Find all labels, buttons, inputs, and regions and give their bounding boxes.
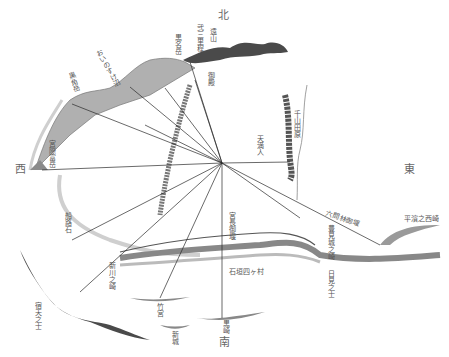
- label-miyanaga: 宮長御堰: [228, 212, 236, 240]
- label-touyama: 遠山: [209, 28, 217, 42]
- label-sansan-ridge: 弐三里程: [196, 24, 204, 52]
- label-shinjou: 新城: [171, 331, 179, 345]
- east-peninsula: [380, 225, 440, 245]
- island-shinjou: [160, 325, 190, 329]
- coastline: [59, 175, 200, 255]
- compass-west: 西: [15, 160, 26, 176]
- label-miyamoto: 宮際富岳: [48, 140, 56, 168]
- label-kuromeidake: 黒名岳: [174, 34, 182, 55]
- south-ridge: [120, 243, 440, 259]
- compass-north: 北: [218, 6, 229, 22]
- label-kurosaki: 黒崎: [222, 320, 230, 334]
- label-hoshiki: 宿天之士: [34, 302, 42, 330]
- label-funaishi: 船路石: [64, 212, 72, 233]
- label-shinkawa: 新川之崎: [108, 262, 116, 290]
- island-kurosaki: [196, 312, 265, 320]
- east-river: [297, 85, 307, 200]
- label-tenma: 天満人: [256, 135, 264, 156]
- compass-east: 東: [404, 160, 415, 176]
- label-hirasaki: 平濱之西崎: [404, 215, 439, 223]
- east-ridge: [285, 95, 292, 180]
- label-chiyama: 千山田原: [293, 110, 301, 138]
- label-ishizuka: 石垣四ヶ村: [229, 268, 264, 276]
- label-toyomi: 豊見城之崎: [327, 225, 335, 260]
- survey-map: [0, 0, 449, 357]
- label-akari: 日見之士: [327, 270, 335, 298]
- compass-south: 南: [219, 333, 230, 349]
- label-goten: 御殿: [207, 72, 215, 86]
- label-takemiya: 竹宮: [156, 303, 164, 317]
- inner-ridge: [160, 85, 190, 215]
